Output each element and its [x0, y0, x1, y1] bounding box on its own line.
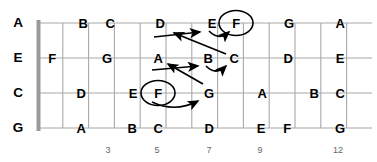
guitar-fretboard-diagram: A E C G B C D E F G A F G A B C D E D E …	[0, 0, 377, 162]
note-marker: F	[48, 52, 56, 65]
fret-number: 3	[105, 146, 110, 155]
arrow-b-to-c	[206, 66, 226, 71]
note-marker: A	[76, 122, 85, 135]
note-marker: D	[204, 122, 213, 135]
note-marker: E	[336, 52, 344, 65]
note-marker: B	[203, 52, 212, 65]
open-string-label: A	[13, 16, 23, 30]
note-marker: G	[102, 52, 112, 65]
string-lines	[37, 23, 372, 128]
note-marker: A	[335, 17, 344, 30]
note-marker: B	[127, 122, 136, 135]
note-marker: A	[257, 87, 266, 100]
fret-number: 5	[154, 146, 159, 155]
note-marker: E	[208, 17, 216, 30]
open-string-label: C	[13, 86, 23, 100]
arrow-f-to-g	[152, 101, 198, 107]
note-marker: E	[257, 122, 265, 135]
note-marker-circled: F	[154, 87, 162, 100]
arrow-e-to-f	[209, 31, 229, 36]
open-string-label: G	[13, 121, 24, 135]
note-marker: G	[204, 87, 214, 100]
note-marker: C	[153, 122, 162, 135]
note-marker: G	[335, 122, 345, 135]
note-marker: C	[229, 52, 238, 65]
note-marker: C	[335, 87, 344, 100]
note-marker: D	[283, 52, 292, 65]
fret-lines	[63, 23, 347, 128]
note-marker: G	[284, 17, 294, 30]
note-marker: A	[153, 52, 162, 65]
fret-number: 12	[333, 146, 343, 155]
open-string-label: E	[13, 51, 22, 65]
note-marker: B	[309, 87, 318, 100]
fret-number: 7	[206, 146, 211, 155]
note-marker: B	[78, 17, 87, 30]
arrow-a-to-b	[152, 66, 198, 70]
note-marker: F	[283, 122, 291, 135]
arrow-d-to-e	[154, 32, 200, 37]
note-marker: C	[105, 17, 114, 30]
note-marker: E	[129, 87, 137, 100]
note-marker-circled: F	[232, 17, 240, 30]
note-marker: D	[155, 17, 164, 30]
fret-number: 9	[257, 146, 262, 155]
note-marker: D	[76, 87, 85, 100]
fretboard-grid	[0, 0, 377, 162]
